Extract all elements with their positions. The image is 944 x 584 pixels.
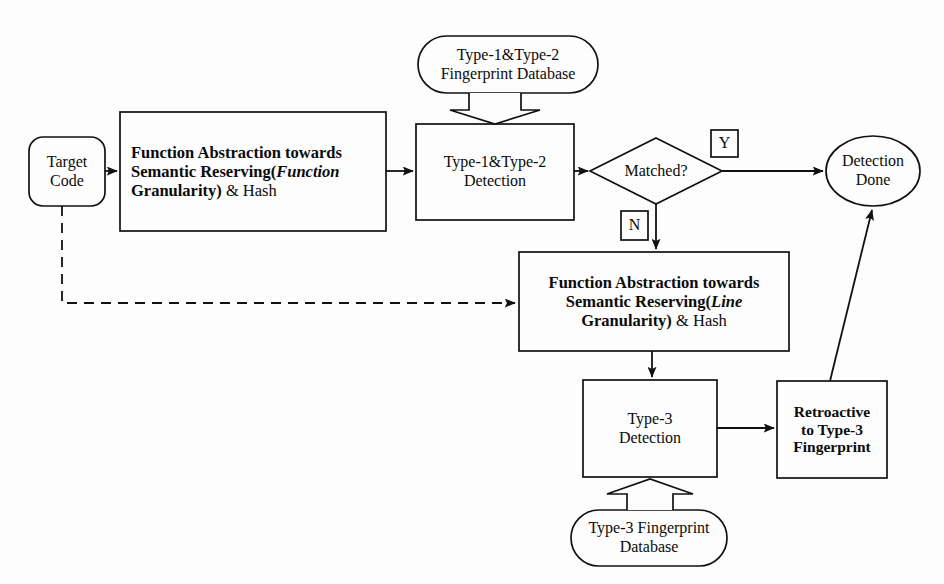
edge-retroactive-to-detection-done bbox=[830, 210, 872, 381]
function-abstraction-line-shape bbox=[519, 252, 789, 351]
no-label-box bbox=[621, 211, 648, 240]
detection-done-shape bbox=[826, 136, 920, 206]
block-arrow-type3-database-to-detection bbox=[607, 479, 693, 510]
target-code-shape bbox=[29, 137, 105, 206]
type3-database-shape bbox=[571, 510, 727, 566]
yes-label-box bbox=[711, 130, 738, 157]
type12-database-shape bbox=[418, 36, 598, 93]
function-abstraction-function-shape bbox=[120, 112, 386, 231]
type12-detection-shape bbox=[416, 124, 574, 220]
type3-detection-shape bbox=[583, 380, 717, 477]
matched-decision-shape bbox=[590, 138, 722, 204]
flowchart-canvas: Target Code Function Abstraction towards… bbox=[0, 0, 944, 584]
retroactive-shape bbox=[777, 381, 887, 478]
flowchart-svg bbox=[0, 0, 944, 584]
block-arrow-type12-database-to-detection bbox=[450, 93, 540, 124]
